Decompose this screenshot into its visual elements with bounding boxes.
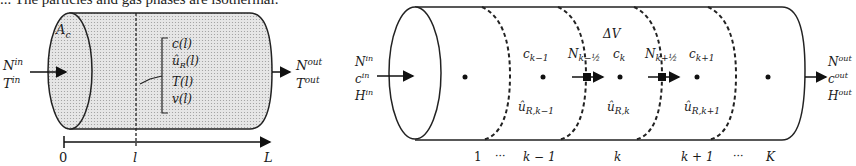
flux-label: Nk+½ <box>645 47 677 63</box>
c-sub: k−1 <box>530 53 549 63</box>
axis-tick-l: l <box>133 150 137 165</box>
inlet-sup: in <box>366 54 374 63</box>
cell-u-label: ûR,k+1 <box>684 100 720 116</box>
flux-sub: k−½ <box>579 53 601 63</box>
c-sub: k <box>620 53 625 63</box>
outlet-flow-label: N <box>296 58 307 73</box>
inlet-sup: in <box>362 71 370 80</box>
inlet-c: c <box>355 72 362 86</box>
flux-label: Nk−½ <box>568 47 600 63</box>
c-sub: k+1 <box>696 53 715 63</box>
cell-index: k <box>614 150 621 164</box>
area-label: Ac <box>56 22 70 40</box>
volume-label: ΔV <box>603 27 620 41</box>
u-sub: R,k−1 <box>526 106 554 116</box>
outlet-sup: out <box>838 88 851 97</box>
area-symbol: A <box>56 22 65 37</box>
flux-sub: k+½ <box>656 53 678 63</box>
u-symbol: û <box>607 100 615 114</box>
state-var: T(l) <box>172 74 199 91</box>
cell-index: K <box>766 150 775 164</box>
inlet-H: H <box>355 89 365 103</box>
u-arg: (l) <box>186 54 199 68</box>
outlet-sup: out <box>835 71 848 80</box>
c-symbol: c <box>689 47 696 61</box>
left-inlet-labels: Nin Tin <box>3 55 23 92</box>
outlet-sup: out <box>307 57 322 67</box>
state-var: ûR(l) <box>172 53 199 74</box>
u-symbol: û <box>684 100 692 114</box>
cell-index: 1 <box>474 150 482 164</box>
u-sub: R,k <box>615 106 630 116</box>
cell-c-label: ck−1 <box>523 47 548 63</box>
inlet-temp-label: T <box>3 77 12 92</box>
inlet-N: N <box>355 55 366 69</box>
outlet-c: c <box>828 72 835 86</box>
state-variables: c(l) ûR(l) T(l) v(l) <box>172 36 199 108</box>
inlet-sup: in <box>365 88 373 97</box>
state-var: c(l) <box>172 36 199 53</box>
outlet-sup: out <box>839 54 852 63</box>
ellipsis: ··· <box>495 150 506 163</box>
cell-index: k − 1 <box>523 150 556 164</box>
u-symbol: û <box>172 54 180 68</box>
flux-symbol: N <box>645 47 656 61</box>
inlet-sup: in <box>12 75 21 85</box>
outlet-sup: out <box>305 75 320 85</box>
inlet-flow-label: N <box>3 58 14 73</box>
axis-tick-L: L <box>264 150 273 165</box>
right-inlet-labels: Nin cin Hin <box>355 52 373 103</box>
cell-c-label: ck <box>613 47 625 63</box>
left-outlet-labels: Nout Tout <box>296 55 322 92</box>
u-symbol: û <box>518 100 526 114</box>
outlet-N: N <box>828 55 839 69</box>
ellipsis: ··· <box>733 150 744 163</box>
flux-symbol: N <box>568 47 579 61</box>
outlet-H: H <box>828 89 838 103</box>
c-symbol: c <box>613 47 620 61</box>
state-var: v(l) <box>172 91 199 108</box>
cell-c-label: ck+1 <box>689 47 714 63</box>
cell-index: k + 1 <box>681 150 714 164</box>
cell-u-label: ûR,k−1 <box>518 100 554 116</box>
cell-u-label: ûR,k <box>607 100 630 116</box>
area-sub: c <box>65 30 70 40</box>
c-symbol: c <box>523 47 530 61</box>
right-outlet-labels: Nout cout Hout <box>828 52 852 103</box>
outlet-temp-label: T <box>296 77 305 92</box>
axis-tick-0: 0 <box>59 150 67 165</box>
u-sub: R,k+1 <box>692 106 720 116</box>
inlet-sup: in <box>14 57 23 67</box>
